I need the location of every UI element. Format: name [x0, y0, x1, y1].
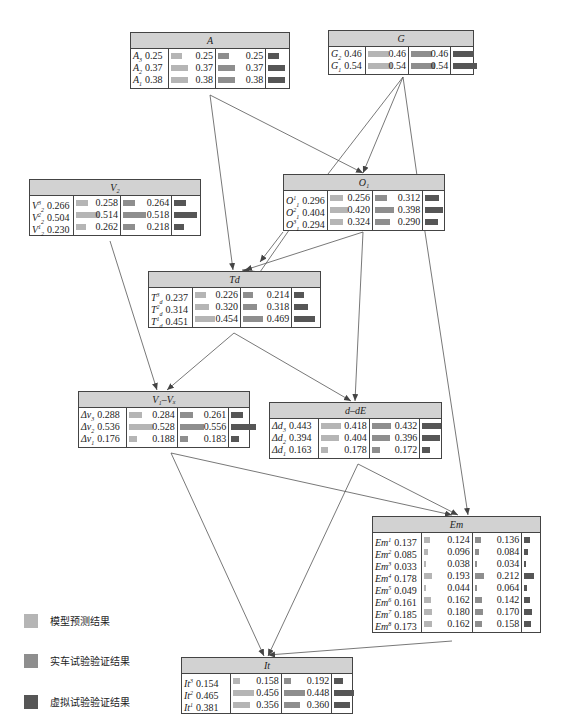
probability-bar: [334, 702, 350, 708]
node-Em: EmEm10.137Em20.085Em30.033Em40.178Em50.0…: [372, 516, 541, 633]
node-column: [332, 674, 352, 713]
probability-bar: [372, 447, 380, 453]
bar-row: 0.158: [473, 618, 521, 630]
bar-row: 0.38: [169, 74, 215, 86]
probability-bar: [171, 65, 188, 71]
node-column: 0.250.370.38: [169, 49, 216, 88]
bar-row: [266, 50, 289, 62]
bar-row: 0.162: [422, 594, 471, 606]
bar-row: [522, 594, 540, 606]
probability-bar: [524, 609, 532, 615]
bar-row: [266, 74, 289, 86]
bar-row: 0.124: [422, 534, 471, 546]
node-column: 0.460.54: [366, 47, 409, 74]
virtual-value: 0.290: [398, 216, 421, 228]
node-column: Δd30.443Δd20.394Δd10.163: [270, 419, 319, 458]
probability-bar: [475, 573, 484, 579]
bar-row: 0.226: [193, 289, 239, 301]
bar-row: [229, 409, 249, 421]
model-value: 0.25: [145, 50, 163, 62]
probability-bar: [268, 77, 285, 83]
probability-bar: [425, 219, 438, 225]
virtual-value: 0.469: [267, 313, 290, 325]
real-value: 0.420: [347, 204, 370, 216]
virtual-value: 0.183: [204, 433, 227, 445]
probability-bar: [174, 200, 186, 206]
real-value: 0.46: [388, 48, 406, 60]
state-sup: 3: [157, 292, 160, 298]
probability-bar: [411, 51, 432, 57]
bar-row: 0.258: [74, 197, 119, 209]
bar-row: 0.034: [473, 558, 521, 570]
virtual-value: 0.212: [497, 570, 520, 582]
probability-bar: [195, 304, 209, 310]
bar-row: 0.356: [231, 699, 280, 711]
probability-bar: [123, 212, 146, 218]
bar-row: [332, 699, 352, 711]
real-value: 0.37: [195, 62, 213, 74]
bar-row: [229, 421, 249, 433]
real-value: 0.162: [447, 618, 470, 630]
virtual-value: 0.46: [431, 48, 449, 60]
bar-row: 0.432: [370, 420, 419, 432]
probability-bar: [375, 219, 390, 225]
real-value: 0.54: [388, 60, 406, 72]
state-label-row: A30.25: [131, 50, 168, 62]
probability-bar: [284, 678, 291, 684]
probability-bar: [524, 549, 528, 555]
node-column: [522, 533, 540, 632]
state-label: A1: [131, 74, 142, 90]
node-column: 0.2640.5180.218: [121, 196, 172, 235]
state-label-row: Em40.178: [373, 570, 421, 582]
state-label-row: V120.230: [30, 221, 73, 233]
state-label-row: T3d0.237: [149, 289, 192, 301]
bar-row: [420, 432, 441, 444]
probability-bar: [129, 436, 137, 442]
real-value: 0.284: [152, 409, 175, 421]
edge-Em-It: [268, 641, 452, 655]
virtual-value: 0.192: [307, 675, 330, 687]
probability-bar: [268, 65, 285, 71]
bar-row: 0.264: [121, 197, 171, 209]
probability-bar: [524, 585, 527, 591]
virtual-value: 0.218: [147, 221, 170, 233]
real-value: 0.25: [195, 50, 213, 62]
state-label-row: Δv30.288: [79, 409, 126, 421]
node-column: [229, 408, 249, 447]
node-ddE: d–dEΔd30.443Δd20.394Δd10.1630.4180.4040.…: [269, 402, 442, 459]
legend-label: 模型预测结果: [50, 613, 110, 628]
bar-row: [423, 204, 444, 216]
bar-row: 0.162: [422, 618, 471, 630]
edge-Td-V1Vx: [167, 333, 234, 390]
bar-row: 0.37: [216, 62, 265, 74]
probability-bar: [195, 292, 206, 298]
bar-row: [172, 209, 200, 221]
bar-row: 0.454: [193, 313, 239, 325]
virtual-value: 0.38: [246, 74, 264, 86]
bar-row: 0.172: [370, 444, 419, 456]
state-label-row: T2d0.314: [149, 301, 192, 313]
bar-row: 0.469: [241, 313, 291, 325]
virtual-value: 0.136: [497, 534, 520, 546]
bar-row: 0.324: [328, 216, 371, 228]
model-value: 0.230: [47, 224, 70, 236]
virtual-value: 0.318: [267, 301, 290, 313]
bar-row: 0.142: [473, 594, 521, 606]
bar-row: 0.192: [282, 675, 331, 687]
state-label-row: Em50.049: [373, 582, 421, 594]
edge-G-O1: [363, 77, 403, 173]
probability-bar: [424, 573, 432, 579]
state-sup: 1: [190, 702, 193, 708]
probability-bar: [171, 77, 188, 83]
probability-bar: [424, 609, 432, 615]
virtual-value: 0.214: [267, 289, 290, 301]
edge-V1Vx-It: [171, 453, 264, 656]
bar-row: [292, 301, 320, 313]
state-label-row: It30.154: [182, 675, 230, 687]
bar-row: 0.46: [409, 48, 450, 60]
legend-swatch-icon: [24, 695, 38, 709]
real-value: 0.193: [447, 570, 470, 582]
bar-row: 0.398: [373, 204, 422, 216]
virtual-value: 0.432: [395, 420, 418, 432]
node-column: 0.3120.3980.290: [373, 191, 423, 230]
